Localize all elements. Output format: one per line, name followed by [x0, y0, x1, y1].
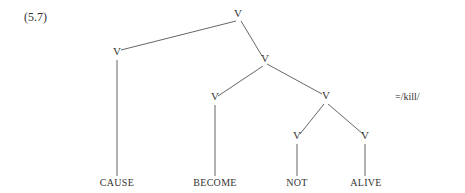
- node-v-right: V: [261, 52, 269, 64]
- node-v-cause: V: [113, 45, 121, 57]
- edge-vnotalive-vnot: [300, 104, 324, 134]
- leaf-become: BECOME: [193, 177, 236, 188]
- leaf-not: NOT: [286, 177, 307, 188]
- edge-vright-vbecome: [218, 66, 263, 96]
- edge-vnotalive-valive: [328, 104, 363, 134]
- node-v-not: V: [293, 129, 301, 141]
- edge-root-vcause: [121, 21, 236, 50]
- node-root: V: [234, 7, 242, 19]
- leaf-alive: ALIVE: [350, 177, 382, 188]
- leaf-cause: CAUSE: [100, 177, 134, 188]
- gloss-kill: =/kill/: [395, 91, 420, 102]
- edge-vright-vnotalive: [267, 64, 322, 94]
- node-v-alive: V: [361, 129, 369, 141]
- node-v-notalive: V: [322, 89, 330, 101]
- node-v-become: V: [211, 90, 219, 102]
- edge-root-vright-main: [241, 21, 262, 56]
